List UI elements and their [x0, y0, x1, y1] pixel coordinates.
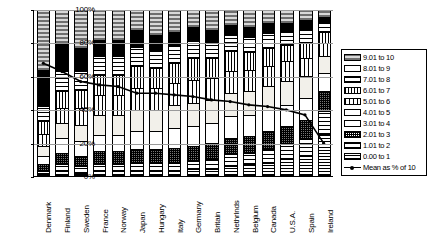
bar-segment	[112, 10, 126, 40]
bar-segment	[224, 166, 238, 176]
y-axis-tick-label: 20%	[65, 140, 95, 148]
bar-segment	[149, 149, 163, 162]
bar-segment	[168, 163, 182, 171]
bar-segment	[243, 115, 257, 137]
bar-segment	[37, 106, 51, 121]
bar-segment	[149, 10, 163, 35]
bar-segment	[299, 43, 313, 58]
bar-segment	[205, 78, 219, 100]
legend-swatch	[344, 109, 361, 116]
y-axis-tick	[31, 77, 34, 78]
stacked-bar	[299, 10, 313, 176]
y-axis-tick	[31, 10, 34, 11]
bar-segment	[205, 123, 219, 143]
bar-segment	[37, 70, 51, 106]
bar-segment	[318, 32, 332, 44]
bar-segment	[187, 169, 201, 176]
bar-segment	[299, 120, 313, 140]
bar-segment	[55, 10, 69, 43]
chart-legend: 9.01 to 108.01 to 97.01 to 86.01 to 75.0…	[341, 49, 427, 176]
bar-segment	[299, 139, 313, 156]
y-axis-tick-label: 100%	[65, 6, 95, 14]
bar-segment	[55, 164, 69, 171]
bar-segment	[299, 20, 313, 30]
legend-label-mean: Mean as % of 10	[363, 164, 416, 172]
bar-segment	[55, 43, 69, 71]
legend-label: 9.01 to 10	[363, 54, 394, 62]
bar-segment	[280, 81, 294, 104]
bar-segment	[205, 58, 219, 78]
bar-segment	[243, 164, 257, 176]
legend-item: 5.01 to 6	[344, 96, 424, 107]
bar-segment	[280, 10, 294, 23]
bar-segment	[205, 159, 219, 169]
bar-segment	[55, 153, 69, 165]
bar-segment	[112, 171, 126, 176]
x-axis-label: Ireland	[327, 210, 335, 233]
bar-segment	[262, 23, 276, 33]
bar-segment	[130, 10, 144, 30]
x-axis-label: Japan	[139, 212, 147, 233]
bar-segment	[262, 149, 276, 162]
bar-segment	[168, 105, 182, 128]
legend-label: 5.01 to 6	[363, 98, 390, 106]
bar-segment	[205, 30, 219, 42]
x-axis-label: Sweden	[83, 205, 91, 233]
bar-segment	[149, 35, 163, 50]
legend-label: 8.01 to 9	[363, 65, 390, 73]
bar-segment	[74, 156, 88, 166]
legend-swatch	[344, 98, 361, 105]
bar-segment	[262, 131, 276, 149]
bar-segment	[262, 110, 276, 132]
bar-segment	[187, 103, 201, 126]
bar-segment	[224, 116, 238, 138]
bar-segment	[262, 163, 276, 176]
plot-area	[33, 10, 333, 177]
y-axis-tick	[31, 110, 34, 111]
x-axis-label: Germany	[195, 202, 203, 234]
bar-column	[243, 10, 257, 176]
stacked-bar	[262, 10, 276, 176]
x-axis-label: Nethrlnds	[233, 201, 241, 233]
bar-segment	[168, 63, 182, 83]
legend-swatch	[344, 76, 361, 83]
bar-segment	[93, 164, 107, 171]
stacked-bar	[224, 10, 238, 176]
stacked-bar	[243, 10, 257, 176]
bar-segment	[318, 111, 332, 134]
bar-segment	[318, 56, 332, 73]
stacked-bar	[130, 10, 144, 176]
bar-segment	[74, 48, 88, 71]
bar-segment	[187, 146, 201, 161]
y-axis-tick	[31, 43, 34, 44]
bar-segment	[112, 151, 126, 164]
legend-swatch	[344, 87, 361, 94]
bar-column	[74, 10, 88, 176]
bar-segment	[280, 23, 294, 31]
bar-segment	[299, 58, 313, 76]
legend-item: 7.01 to 8	[344, 74, 424, 85]
legend-item: 3.01 to 4	[344, 118, 424, 129]
stacked-bar	[187, 10, 201, 176]
bar-segment	[224, 154, 238, 166]
bar-group	[34, 10, 333, 176]
bar-segment	[224, 10, 238, 25]
bar-segment	[149, 131, 163, 149]
bar-segment	[168, 171, 182, 176]
bar-segment	[224, 138, 238, 155]
legend-label: 2.01 to 3	[363, 131, 390, 139]
bar-segment	[318, 22, 332, 32]
bar-segment	[243, 70, 257, 92]
bar-segment	[130, 131, 144, 149]
bar-segment	[243, 52, 257, 70]
legend-item: 2.01 to 3	[344, 129, 424, 140]
y-axis-tick-label: 80%	[65, 39, 95, 47]
stacked-bar	[37, 10, 51, 176]
bar-segment	[262, 10, 276, 23]
bar-segment	[280, 144, 294, 159]
bar-segment	[299, 30, 313, 43]
bar-segment	[149, 68, 163, 88]
stacked-bar	[280, 10, 294, 176]
bar-segment	[130, 171, 144, 176]
bar-segment	[280, 45, 294, 62]
